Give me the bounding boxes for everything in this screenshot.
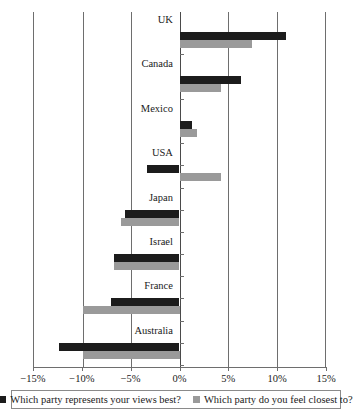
bar-views-best	[114, 254, 180, 262]
bar-closest-to	[83, 351, 180, 359]
bar-views-best	[59, 343, 179, 351]
x-axis-line	[33, 367, 326, 368]
legend-label: Which party represents your views best?	[10, 393, 181, 406]
bar-views-best	[180, 32, 287, 40]
chart-legend: Which party represents your views best? …	[11, 390, 341, 409]
category-label: Australia	[134, 324, 179, 337]
bar-closest-to	[83, 306, 180, 314]
category-tick	[180, 232, 184, 233]
category-label: Israel	[150, 235, 179, 248]
category-tick	[180, 321, 184, 322]
category-tick	[180, 298, 184, 299]
bar-row: Mexico	[34, 101, 325, 145]
bar-row: Canada	[34, 56, 325, 100]
bar-views-best	[147, 165, 180, 173]
bar-closest-to	[114, 262, 180, 270]
category-label: Japan	[149, 191, 179, 204]
bar-views-best	[180, 121, 193, 129]
category-tick	[180, 188, 184, 189]
plot-area: UKCanadaMexicoUSAJapanIsraelFranceAustra…	[33, 12, 326, 367]
legend-label: Which party do you feel closest to?	[204, 393, 353, 406]
legend-item: Which party do you feel closest to?	[193, 393, 353, 406]
bar-views-best	[111, 298, 180, 306]
x-tick-label: −10%	[69, 372, 94, 385]
category-label: UK	[158, 13, 179, 26]
x-tick-label: −5%	[121, 372, 141, 385]
category-tick	[180, 254, 184, 255]
x-tick-label: 0%	[173, 372, 187, 385]
category-tick	[180, 54, 184, 55]
x-tick	[228, 367, 229, 371]
x-tick	[131, 367, 132, 371]
bar-closest-to	[180, 173, 222, 181]
category-tick	[180, 276, 184, 277]
category-tick	[180, 165, 184, 166]
x-tick-label: 5%	[221, 372, 235, 385]
x-tick	[277, 367, 278, 371]
bar-rows: UKCanadaMexicoUSAJapanIsraelFranceAustra…	[34, 12, 325, 367]
x-tick-label: 15%	[316, 372, 335, 385]
x-axis-tick-labels: −15%−10%−5%0%5%10%15%	[0, 372, 352, 386]
bar-closest-to	[180, 129, 197, 137]
category-tick	[180, 143, 184, 144]
category-label: France	[144, 279, 179, 292]
x-tick-label: 10%	[268, 372, 287, 385]
x-tick-label: −15%	[20, 372, 45, 385]
bar-row: France	[34, 278, 325, 322]
bar-row: Japan	[34, 190, 325, 234]
category-label: USA	[152, 146, 179, 159]
x-tick	[180, 367, 181, 371]
category-label: Mexico	[141, 102, 179, 115]
x-tick	[326, 367, 327, 371]
bar-closest-to	[121, 218, 179, 226]
category-tick	[180, 343, 184, 344]
legend-item: Which party represents your views best?	[0, 393, 181, 406]
category-tick	[180, 210, 184, 211]
bar-row: USA	[34, 145, 325, 189]
bar-row: UK	[34, 12, 325, 56]
bar-closest-to	[180, 84, 222, 92]
x-tick	[33, 367, 34, 371]
bar-closest-to	[180, 40, 253, 48]
bar-row: Israel	[34, 234, 325, 278]
dark-swatch-icon	[0, 396, 6, 403]
category-tick	[180, 365, 184, 366]
category-tick	[180, 99, 184, 100]
bar-views-best	[180, 76, 241, 84]
category-label: Canada	[141, 57, 179, 70]
x-tick	[82, 367, 83, 371]
bar-row: Australia	[34, 323, 325, 367]
bar-views-best	[125, 210, 179, 218]
light-swatch-icon	[193, 396, 200, 403]
